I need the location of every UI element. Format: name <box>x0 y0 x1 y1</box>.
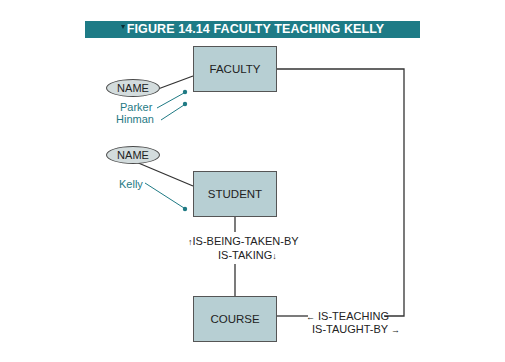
value-hinman: Hinman <box>116 113 154 125</box>
entity-student-label: STUDENT <box>208 188 262 200</box>
arrow-left-icon: ← <box>306 312 315 322</box>
entity-faculty-label: FACULTY <box>210 63 261 75</box>
arrow-right-icon: → <box>391 325 400 335</box>
entity-course-label: COURSE <box>210 313 259 325</box>
attribute-student-name: NAME <box>106 146 160 164</box>
value-kelly: Kelly <box>119 178 143 190</box>
arrow-down-icon: ↓ <box>272 251 277 261</box>
entity-student: STUDENT <box>193 171 277 217</box>
relationship-student-course-reverse: IS-TAKING↓ <box>218 249 277 263</box>
value-parker: Parker <box>120 101 152 113</box>
relationship-student-course-forward: ↑IS-BEING-TAKEN-BY <box>188 235 299 249</box>
relationship-faculty-course-forward: ← IS-TEACHING <box>306 310 389 324</box>
attribute-faculty-name: NAME <box>106 79 160 97</box>
entity-course: COURSE <box>193 296 277 342</box>
relationship-faculty-course-reverse: IS-TAUGHT-BY → <box>312 323 400 337</box>
entity-faculty: FACULTY <box>193 46 277 92</box>
